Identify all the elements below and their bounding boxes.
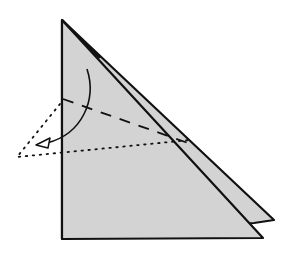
front-layer [62,20,263,239]
arrow-head-icon [36,138,50,148]
origami-diagram [0,0,291,254]
